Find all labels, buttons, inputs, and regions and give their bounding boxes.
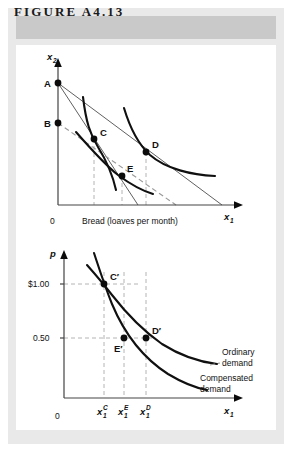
y-axis-label-bottom-chart: p: [49, 248, 56, 259]
figure-root: FIGURE A4.13: [0, 0, 292, 460]
svg-text:1: 1: [230, 217, 234, 224]
svg-text:2: 2: [52, 57, 57, 64]
y-tick-label-100: $1.00: [28, 279, 50, 289]
svg-text:x: x: [139, 406, 146, 417]
svg-text:1: 1: [146, 412, 150, 419]
ordinary-demand-curve: [87, 265, 217, 364]
x-axis-arrow-bottom-chart: [234, 394, 243, 402]
point-C: C: [91, 127, 107, 142]
origin-label-top-chart: 0: [50, 216, 55, 226]
figure-charts-svg: x 2 x 1 0 Bread (loaves per month) A B C: [0, 0, 292, 460]
svg-text:x: x: [96, 406, 103, 417]
svg-text:Ordinary: Ordinary: [222, 347, 255, 357]
origin-label-bottom-chart: 0: [55, 411, 60, 421]
svg-text:C: C: [103, 404, 108, 411]
svg-text:1: 1: [103, 412, 107, 419]
indifference-curve-chart: x 2 x 1 0 Bread (loaves per month) A B C: [44, 51, 243, 226]
svg-text:E′: E′: [114, 343, 123, 354]
svg-text:C: C: [100, 127, 107, 138]
svg-text:C′: C′: [110, 271, 120, 282]
svg-text:B: B: [44, 118, 51, 129]
x-tick-label-xD: x 1 D: [139, 404, 151, 419]
x-axis-label-top-chart: x 1: [223, 211, 234, 224]
x-axis-arrow-top-chart: [234, 201, 243, 209]
point-B: B: [44, 118, 61, 129]
y-tick-label-050: 0.50: [33, 333, 50, 343]
x-tick-label-xC: x 1 C: [96, 404, 108, 419]
svg-text:x: x: [223, 211, 230, 222]
point-D-prime: D′: [143, 325, 162, 341]
svg-text:Compensated: Compensated: [200, 373, 253, 383]
svg-text:x: x: [223, 405, 230, 416]
svg-text:x: x: [117, 406, 124, 417]
svg-text:D: D: [152, 139, 159, 150]
y-axis-arrow-bottom-chart: [60, 250, 68, 259]
svg-text:demand: demand: [222, 358, 253, 368]
point-A: A: [44, 78, 61, 89]
demand-curve-chart: p x 1 0 $1.00 0.50 x 1 C x 1 E x: [28, 248, 255, 421]
y-axis-label-top-chart: x 2: [46, 51, 57, 64]
svg-text:A: A: [44, 78, 51, 89]
svg-text:1: 1: [230, 411, 234, 418]
x-axis-caption-top-chart: Bread (loaves per month): [82, 216, 178, 226]
ordinary-demand-label: Ordinary demand: [222, 347, 255, 368]
svg-text:x: x: [46, 51, 53, 62]
compensated-budget-line: [58, 123, 176, 205]
svg-text:E: E: [127, 163, 133, 174]
svg-text:1: 1: [124, 412, 128, 419]
svg-text:D′: D′: [152, 325, 162, 336]
budget-line-initial: [58, 83, 138, 205]
x-axis-label-bottom-chart: x 1: [223, 405, 234, 418]
svg-text:demand: demand: [200, 384, 231, 394]
svg-text:D: D: [146, 404, 151, 411]
x-tick-label-xE: x 1 E: [117, 404, 129, 419]
svg-text:E: E: [124, 404, 129, 411]
compensated-demand-label: Compensated demand: [200, 373, 253, 394]
point-E: E: [119, 163, 134, 179]
